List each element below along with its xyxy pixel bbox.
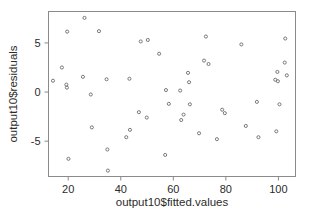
data-point <box>186 71 189 74</box>
plot-frame-rect <box>49 12 296 177</box>
y-tick-label: -5 <box>31 135 41 147</box>
data-point <box>223 112 226 115</box>
data-point <box>285 74 288 77</box>
data-point <box>284 37 287 40</box>
data-point <box>198 132 201 135</box>
data-point <box>278 103 281 106</box>
data-point <box>207 62 210 65</box>
data-point <box>283 61 286 64</box>
scatter-plot-figure: 20406080100 50-5 output10$fitted.values … <box>0 0 312 221</box>
data-point <box>106 148 109 151</box>
data-point <box>145 116 148 119</box>
data-point <box>240 43 243 46</box>
y-axis-tick-labels: 50-5 <box>31 37 41 147</box>
data-point <box>276 80 279 83</box>
x-tick-label: 40 <box>115 183 127 195</box>
data-point <box>221 108 224 111</box>
data-point <box>83 16 86 19</box>
data-point <box>66 30 69 33</box>
x-tick-label: 100 <box>269 183 287 195</box>
x-tick-label: 80 <box>220 183 232 195</box>
data-point <box>60 66 63 69</box>
data-point <box>164 153 167 156</box>
data-point <box>106 169 109 172</box>
x-axis-title: output10$fitted.values <box>116 196 229 208</box>
data-point <box>128 77 131 80</box>
y-tick-label: 0 <box>34 86 40 98</box>
data-points-layer <box>51 16 288 172</box>
x-axis-tick-marks <box>68 177 278 181</box>
x-axis-tick-labels: 20406080100 <box>62 183 288 195</box>
data-point <box>146 38 149 41</box>
y-axis-tick-marks <box>45 43 49 141</box>
data-point <box>188 81 191 84</box>
data-point <box>257 136 260 139</box>
data-point <box>244 124 247 127</box>
data-point <box>89 93 92 96</box>
data-point <box>51 79 54 82</box>
y-tick-label: 5 <box>34 37 40 49</box>
data-point <box>158 52 161 55</box>
data-point <box>255 100 258 103</box>
data-point <box>275 130 278 133</box>
data-point <box>81 75 84 78</box>
data-point <box>125 136 128 139</box>
data-point <box>164 89 167 92</box>
plot-canvas: 20406080100 50-5 output10$fitted.values … <box>0 0 312 221</box>
x-tick-label: 60 <box>167 183 179 195</box>
data-point <box>203 59 206 62</box>
data-point <box>188 103 191 106</box>
data-point <box>128 128 131 131</box>
data-point <box>67 157 70 160</box>
y-axis-title: output10$residuals <box>7 45 19 142</box>
data-point <box>276 70 279 73</box>
data-point <box>204 35 207 38</box>
data-point <box>182 113 185 116</box>
data-point <box>97 30 100 33</box>
data-point <box>105 78 108 81</box>
data-point <box>137 111 140 114</box>
data-point <box>139 40 142 43</box>
data-point <box>215 138 218 141</box>
plot-frame <box>49 12 296 177</box>
x-tick-label: 20 <box>62 183 74 195</box>
data-point <box>90 126 93 129</box>
data-point <box>179 89 182 92</box>
data-point <box>167 102 170 105</box>
data-point <box>180 118 183 121</box>
